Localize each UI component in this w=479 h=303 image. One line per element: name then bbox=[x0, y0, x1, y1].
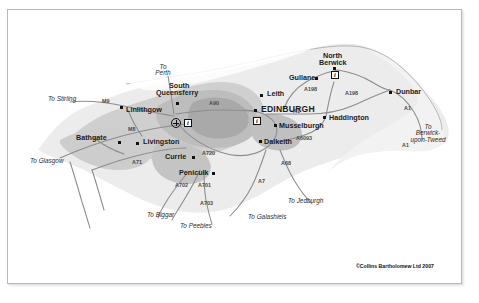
road-label-a7: A7 bbox=[258, 179, 265, 184]
map-frame: EDINBURGH Leith South Queensferry Linlit… bbox=[7, 9, 462, 284]
road-label-a198: A198 bbox=[304, 87, 317, 92]
direction-label-to-jedburgh: To Jedburgh bbox=[288, 198, 323, 204]
direction-label-to-stirling: To Stirling bbox=[48, 96, 76, 102]
place-marker-north-berwick bbox=[333, 67, 336, 70]
place-marker-penicuik bbox=[212, 172, 215, 175]
direction-label-to-glasgow: To Glasgow bbox=[30, 158, 64, 164]
direction-label-to-biggar: To Biggar bbox=[147, 212, 174, 218]
map-credit: ©Collins Bartholomew Ltd 2007 bbox=[356, 264, 434, 269]
road-label-a6093: A6093 bbox=[296, 136, 312, 141]
place-label-berwick: Berwick bbox=[319, 59, 347, 66]
road-label-a1: A1 bbox=[293, 109, 300, 114]
road-label-a701: A701 bbox=[198, 183, 211, 188]
place-label-livingston: Livingston bbox=[143, 138, 179, 145]
road-label-a1: A1 bbox=[404, 106, 411, 111]
place-label-queensferry: Queensferry bbox=[156, 89, 198, 96]
place-marker-dunbar bbox=[389, 91, 392, 94]
place-label-leith: Leith bbox=[267, 90, 284, 97]
place-marker-south-queensferry bbox=[176, 102, 179, 105]
place-label-edinburgh: EDINBURGH bbox=[261, 105, 315, 114]
place-label-bathgate: Bathgate bbox=[76, 134, 107, 141]
road-label-a702: A702 bbox=[175, 183, 188, 188]
road-label-a198: A198 bbox=[345, 91, 358, 96]
place-marker-bathgate bbox=[118, 141, 121, 144]
map-graphic bbox=[8, 10, 461, 283]
information-icon: i bbox=[253, 117, 261, 125]
place-marker-edinburgh bbox=[254, 109, 257, 112]
road-label-a703: A703 bbox=[200, 201, 213, 206]
place-label-dalkeith: Dalkeith bbox=[264, 138, 292, 145]
road-label-m9: M9 bbox=[102, 99, 110, 104]
information-icon: i bbox=[331, 71, 339, 79]
place-label-musselburgh: Musselburgh bbox=[279, 122, 324, 129]
place-marker-dalkeith bbox=[259, 140, 262, 143]
road-label-m8: M8 bbox=[128, 127, 136, 132]
direction-label-to-galashiels: To Galashiels bbox=[248, 214, 286, 220]
place-marker-linlithgow bbox=[120, 106, 123, 109]
place-marker-leith bbox=[260, 94, 263, 97]
direction-label-to-berwick-upon-tweed: ToBerwick-upon-Tweed bbox=[406, 124, 450, 143]
information-icon: i bbox=[184, 119, 192, 127]
place-label-currie: Currie bbox=[165, 153, 186, 160]
place-label-linlithgow: Linlithgow bbox=[126, 106, 162, 113]
place-marker-haddington bbox=[323, 116, 326, 119]
place-label-gullane: Gullane bbox=[289, 74, 315, 81]
airport-icon bbox=[171, 118, 181, 128]
place-marker-currie bbox=[192, 156, 195, 159]
road-label-a71: A71 bbox=[132, 160, 142, 165]
road-label-a90: A90 bbox=[209, 101, 219, 106]
place-marker-gullane bbox=[315, 77, 318, 80]
direction-label-to-peebles: To Peebles bbox=[180, 223, 212, 229]
place-label-haddington: Haddington bbox=[329, 114, 369, 121]
place-marker-musselburgh bbox=[274, 124, 277, 127]
road-label-a68: A68 bbox=[281, 161, 291, 166]
direction-label-to-perth: ToPerth bbox=[149, 64, 177, 77]
road-label-a1: A1 bbox=[402, 143, 409, 148]
road-label-a720: A720 bbox=[202, 151, 215, 156]
place-label-penicuik: Penicuik bbox=[179, 169, 209, 176]
place-marker-livingston bbox=[136, 142, 139, 145]
place-label-dunbar: Dunbar bbox=[396, 88, 421, 95]
